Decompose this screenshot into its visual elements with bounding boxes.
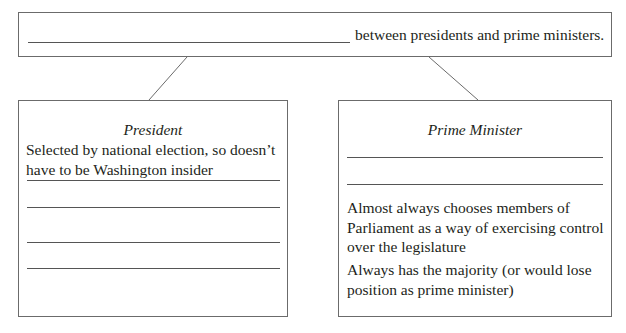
president-blank-3[interactable] [27, 242, 280, 243]
president-heading: President [19, 121, 287, 139]
prime-minister-detail-1: Almost always chooses members of Parliam… [347, 198, 609, 257]
prime-minister-blank-1[interactable] [347, 157, 603, 158]
president-blank-1[interactable] [27, 180, 280, 181]
main-idea-blank[interactable] [28, 42, 350, 43]
president-blank-4[interactable] [27, 268, 280, 269]
main-idea-box: between presidents and prime ministers. [18, 12, 612, 57]
president-box: President Selected by national election,… [18, 100, 288, 317]
president-detail: Selected by national election, so doesn’… [26, 140, 284, 179]
prime-minister-detail-2: Always has the majority (or would lose p… [347, 260, 609, 299]
prime-minister-heading: Prime Minister [339, 121, 611, 139]
connector-left [149, 57, 187, 100]
main-idea-text: between presidents and prime ministers. [355, 26, 604, 44]
prime-minister-box: Prime Minister Almost always chooses mem… [338, 100, 612, 317]
prime-minister-blank-2[interactable] [347, 184, 603, 185]
connector-right [429, 57, 478, 100]
president-blank-2[interactable] [27, 207, 280, 208]
